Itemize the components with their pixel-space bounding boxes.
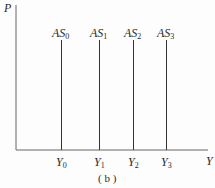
as3-label: AS3: [157, 27, 174, 41]
y-axis-label: P: [4, 2, 11, 14]
x-axis-label: Y: [206, 155, 213, 167]
as2-label: AS2: [124, 27, 141, 41]
y2-tick-label: Y2: [128, 156, 139, 170]
as0-label: AS0: [52, 27, 69, 41]
y3-tick-label: Y3: [161, 156, 172, 170]
figure-caption: ( b ): [98, 173, 116, 184]
y1-tick-label: Y1: [94, 156, 105, 170]
y0-tick-label: Y0: [56, 156, 67, 170]
as1-label: AS1: [90, 27, 107, 41]
diagram-canvas: [0, 0, 215, 188]
vertical-as-curves-diagram: P Y AS0 AS1 AS2 AS3 Y0 Y1 Y2 Y3 ( b ): [0, 0, 215, 188]
